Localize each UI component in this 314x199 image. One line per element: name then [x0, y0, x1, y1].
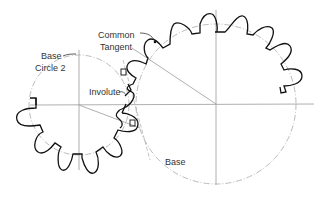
label-involute: Involute — [89, 87, 121, 97]
base-tick-mark — [121, 69, 126, 75]
label-base-circle-2: Circle 2 — [35, 63, 66, 73]
involute-detail — [116, 69, 135, 128]
line-of-action-right — [132, 48, 216, 104]
label-base-circle-1: Base — [41, 51, 62, 61]
gear-mesh-diagram: Common Tangent Base Circle 2 Involute Ba… — [0, 0, 314, 199]
common-tangent-line — [123, 60, 150, 160]
tangent-point-marker — [154, 41, 157, 44]
label-tangent: Tangent — [100, 42, 133, 52]
line-of-action-left — [79, 105, 140, 128]
label-common: Common — [98, 30, 135, 40]
gear-left — [17, 98, 138, 173]
label-base: Base — [165, 157, 186, 167]
